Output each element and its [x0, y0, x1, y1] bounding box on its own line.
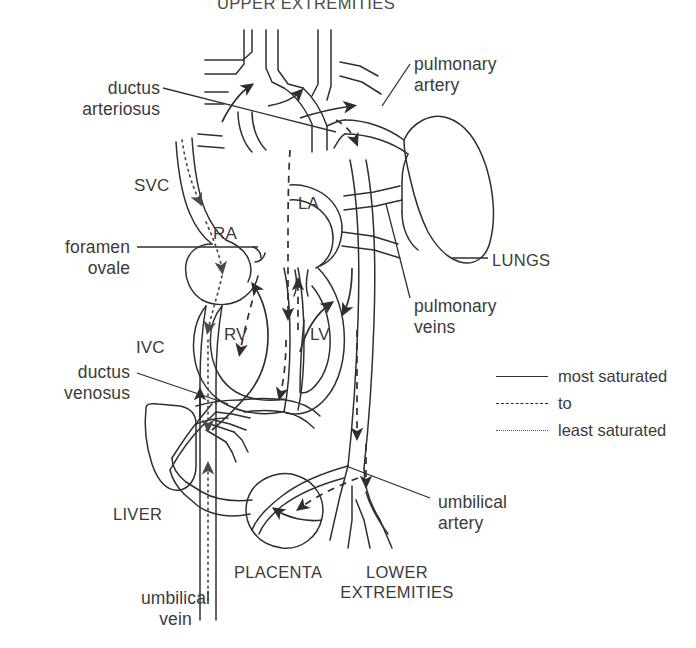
label-lower-extremities: LOWER EXTREMITIES: [339, 562, 455, 602]
aortic-arch: [198, 88, 327, 152]
foramen-ovale-region: [253, 247, 265, 262]
label-ductus-arteriosus: ductus arteriosus: [35, 78, 160, 121]
label-svc: SVC: [134, 176, 169, 197]
label-foramen-ovale: foramen ovale: [20, 237, 130, 280]
legend-item-most-saturated: most saturated: [496, 367, 686, 387]
legend-swatch-solid-line: [496, 376, 548, 377]
label-lungs: LUNGS: [492, 250, 550, 270]
label-left-atrium: LA: [298, 194, 319, 215]
aortic-bifurcation: [330, 466, 392, 548]
legend-item-least-saturated: least saturated: [496, 421, 686, 441]
pulmonary-artery-trunk: [327, 120, 408, 154]
label-umbilical-vein: umbilical vein: [118, 588, 233, 631]
label-left-ventricle: LV: [310, 325, 330, 346]
legend-label-to: to: [558, 394, 572, 413]
legend-swatch-dotted-line: [496, 430, 548, 431]
label-pulmonary-artery: pulmonary artery: [414, 54, 534, 97]
legend-swatch-dashed-line: [496, 403, 548, 404]
figure-canvas: UPPER EXTREMITIES ductus arteriosus SVC …: [0, 0, 696, 648]
legend-label-least-saturated: least saturated: [558, 421, 666, 440]
label-right-atrium: RA: [213, 224, 237, 245]
lungs-shape: [402, 116, 493, 263]
label-right-ventricle: RV: [224, 325, 248, 346]
label-ductus-venosus: ductus venosus: [25, 362, 130, 405]
label-pulmonary-veins: pulmonary veins: [414, 296, 534, 339]
right-atrium: [186, 240, 258, 305]
legend-label-most-saturated: most saturated: [558, 367, 667, 386]
placenta-shape: [246, 474, 323, 549]
label-umbilical-artery: umbilical artery: [438, 492, 558, 535]
legend-item-to: to: [496, 394, 686, 414]
pulmonary-veins-vessels: [342, 186, 402, 258]
label-liver: LIVER: [113, 504, 162, 524]
umbilical-vein-vessel: [170, 458, 252, 516]
label-placenta: PLACENTA: [234, 562, 322, 582]
upper-extremities-title: UPPER EXTREMITIES: [186, 0, 426, 13]
flow-arrows-most-saturated: [200, 86, 352, 521]
upper-extremity-vessels: [205, 30, 381, 100]
label-ivc: IVC: [136, 338, 165, 359]
